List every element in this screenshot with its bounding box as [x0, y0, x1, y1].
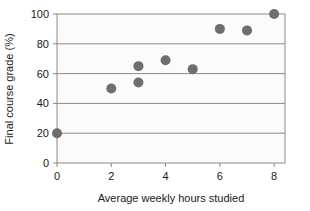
data-point	[242, 25, 252, 35]
x-tick-label-2: 2	[108, 170, 114, 182]
y-tick-label-40: 40	[37, 97, 49, 109]
y-axis: 020406080100	[31, 8, 57, 169]
x-tick-label-4: 4	[163, 170, 169, 182]
data-point	[215, 24, 225, 34]
data-point	[161, 55, 171, 65]
data-point	[133, 78, 143, 88]
x-tick-label-6: 6	[217, 170, 223, 182]
data-point	[133, 61, 143, 71]
chart-canvas: 020406080100 02468 Average weekly hours …	[0, 0, 310, 211]
data-point	[52, 128, 62, 138]
y-tick-label-60: 60	[37, 68, 49, 80]
data-point	[269, 9, 279, 19]
plot-area-background	[57, 14, 285, 163]
data-point	[188, 64, 198, 74]
scatter-chart: 020406080100 02468 Average weekly hours …	[0, 0, 310, 211]
y-axis-title: Final course grade (%)	[3, 33, 15, 144]
x-axis: 02468	[54, 163, 277, 182]
data-point	[106, 84, 116, 94]
y-tick-label-20: 20	[37, 127, 49, 139]
y-tick-label-100: 100	[31, 8, 49, 20]
x-axis-title: Average weekly hours studied	[98, 192, 245, 204]
x-tick-label-0: 0	[54, 170, 60, 182]
y-tick-label-0: 0	[43, 157, 49, 169]
x-tick-label-8: 8	[271, 170, 277, 182]
y-tick-label-80: 80	[37, 38, 49, 50]
